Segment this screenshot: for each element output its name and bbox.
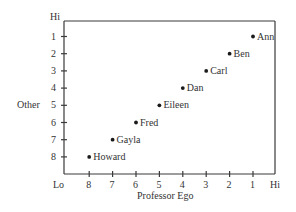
x-axis-title: Professor Ego bbox=[137, 191, 193, 201]
point-label: Ann bbox=[257, 32, 274, 42]
data-point bbox=[87, 155, 91, 159]
point-label: Fred bbox=[140, 118, 158, 128]
point-label: Dan bbox=[187, 83, 204, 93]
x-axis-high-label: Hi bbox=[270, 180, 280, 190]
data-point bbox=[181, 86, 185, 90]
x-tick-label: 2 bbox=[227, 180, 232, 190]
x-tick-label: 1 bbox=[250, 180, 255, 190]
data-point bbox=[158, 103, 162, 107]
y-tick-label: 4 bbox=[51, 83, 56, 93]
point-label: Carl bbox=[210, 66, 227, 76]
data-point bbox=[134, 121, 138, 125]
y-tick-label: 2 bbox=[51, 49, 56, 59]
point-label: Howard bbox=[93, 152, 125, 162]
y-tick-label: 1 bbox=[51, 32, 56, 42]
x-tick-label: 6 bbox=[133, 180, 138, 190]
data-point bbox=[111, 138, 115, 142]
y-tick-label: 5 bbox=[51, 100, 56, 110]
x-tick-label: 4 bbox=[180, 180, 185, 190]
y-tick-label: 7 bbox=[51, 135, 56, 145]
data-point bbox=[251, 35, 255, 39]
y-tick-label: 6 bbox=[51, 118, 56, 128]
data-point bbox=[228, 52, 232, 56]
y-axis-title: Other bbox=[17, 100, 40, 110]
y-tick-label: 8 bbox=[51, 152, 56, 162]
x-tick-label: 7 bbox=[110, 180, 115, 190]
y-axis-high-label: Hi bbox=[50, 12, 60, 22]
data-point bbox=[204, 69, 208, 73]
point-label: Eileen bbox=[163, 100, 189, 110]
x-tick-label: 3 bbox=[203, 180, 208, 190]
y-tick-label: 3 bbox=[51, 66, 56, 76]
x-tick-label: 8 bbox=[86, 180, 91, 190]
point-label: Ben bbox=[234, 49, 250, 59]
scatter-chart: Hi Other Lo Hi Professor Ego 12345678876… bbox=[0, 0, 296, 212]
x-axis-low-label: Lo bbox=[53, 180, 64, 190]
x-tick-label: 5 bbox=[156, 180, 161, 190]
point-label: Gayla bbox=[117, 135, 141, 145]
